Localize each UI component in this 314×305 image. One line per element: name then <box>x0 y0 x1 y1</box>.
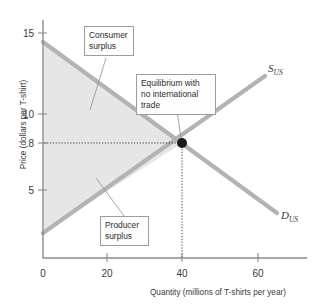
consumer-surplus-callout: Consumer surplus <box>84 26 134 56</box>
y-tick-label-5: 5 <box>28 185 34 196</box>
supply-curve-label: SUS <box>268 62 283 77</box>
x-tick-label-40: 40 <box>176 268 188 279</box>
y-tick-label-8: 8 <box>28 138 34 149</box>
equilibrium-point <box>177 138 187 148</box>
x-tick-label-20: 20 <box>101 268 113 279</box>
demand-curve-label: DUS <box>280 209 298 224</box>
y-axis-title: Price (dollars per T-shirt) <box>19 50 28 200</box>
x-axis-title: Quantity (millions of T-shirts per year) <box>150 288 286 297</box>
economics-supply-demand-figure: 15 10 8 5 0 20 40 60 SUS DUS Quantity (m… <box>0 0 314 305</box>
producer-surplus-callout: Producer surplus <box>100 216 149 246</box>
x-tick-label-60: 60 <box>252 268 264 279</box>
y-tick-label-15: 15 <box>23 28 35 39</box>
x-tick-label-0: 0 <box>40 268 46 279</box>
plot-canvas: 15 10 8 5 0 20 40 60 SUS DUS <box>0 0 314 305</box>
equilibrium-callout: Equilibrium with no international trade <box>136 74 216 115</box>
